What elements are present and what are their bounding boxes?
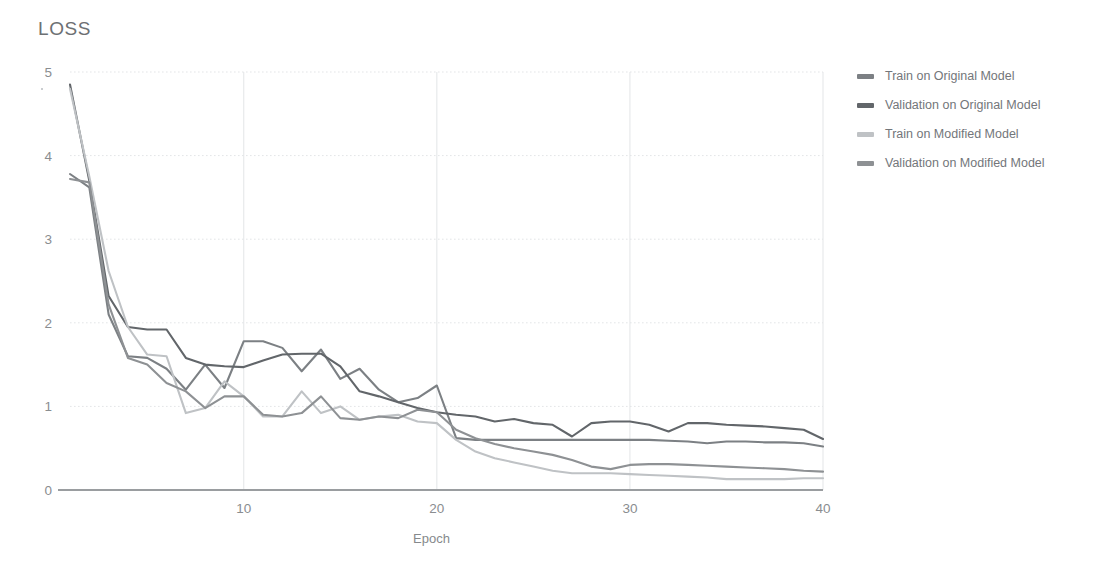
y-tick-label: 2 — [44, 316, 52, 331]
y-tick-label: 3 — [44, 232, 52, 247]
legend-item-validation-original[interactable]: Validation on Original Model — [857, 91, 1097, 120]
chart-legend: Train on Original Model Validation on Or… — [857, 62, 1097, 178]
x-axis-title: Epoch — [413, 531, 450, 546]
legend-swatch-icon — [857, 132, 874, 137]
x-tick-label: 10 — [236, 501, 251, 516]
legend-item-validation-modified[interactable]: Validation on Modified Model — [857, 149, 1097, 178]
legend-label: Train on Original Model — [885, 70, 1014, 83]
legend-swatch-icon — [857, 74, 874, 79]
y-tick-label: 0 — [44, 483, 52, 498]
legend-item-train-original[interactable]: Train on Original Model — [857, 62, 1097, 91]
legend-item-train-modified[interactable]: Train on Modified Model — [857, 120, 1097, 149]
legend-label: Validation on Modified Model — [885, 157, 1045, 170]
x-tick-label: 20 — [429, 501, 444, 516]
y-tick-label: 1 — [44, 399, 52, 414]
legend-swatch-icon — [857, 161, 874, 166]
chart-container: LOSS 01234510203040Epoch Train on Origin… — [0, 0, 1103, 567]
legend-label: Validation on Original Model — [885, 99, 1040, 112]
legend-label: Train on Modified Model — [885, 128, 1019, 141]
series-line-3[interactable] — [70, 179, 823, 472]
x-tick-label: 30 — [622, 501, 637, 516]
y-tick-label: 5 — [44, 65, 52, 80]
y-tick-label: 4 — [44, 149, 52, 164]
x-tick-label: 40 — [815, 501, 830, 516]
legend-swatch-icon — [857, 103, 874, 108]
